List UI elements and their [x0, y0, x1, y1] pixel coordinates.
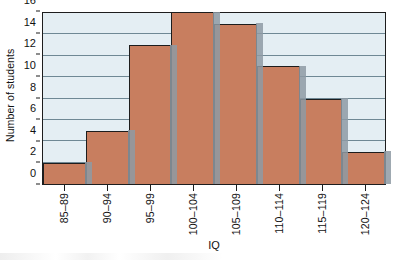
bar-cell: [43, 13, 86, 184]
x-tick-cell: 115–119: [300, 185, 343, 243]
y-tick-mark: [36, 97, 40, 98]
y-tick-label: 12: [24, 37, 36, 49]
bar-cell: [214, 13, 257, 184]
y-tick-label: 14: [24, 16, 36, 28]
y-tick-mark: [36, 54, 40, 55]
bar-series: [43, 13, 385, 184]
y-tick-label: 0: [30, 167, 36, 179]
scan-artifact: [0, 253, 398, 260]
histogram-bar[interactable]: [129, 45, 172, 184]
x-tick-label: 120–124: [359, 193, 371, 235]
histogram-bar[interactable]: [257, 66, 300, 184]
x-tick-label: 115–119: [316, 193, 328, 234]
histogram-bar[interactable]: [342, 152, 385, 184]
x-tick-mark: [107, 185, 108, 191]
y-tick-mark: [36, 119, 40, 120]
bar-cell: [342, 13, 385, 184]
x-tick-cell: 105–109: [214, 185, 257, 243]
bar-cell: [86, 13, 129, 184]
y-tick-mark: [36, 184, 40, 185]
histogram-bar[interactable]: [171, 13, 214, 184]
histogram-bar[interactable]: [214, 24, 257, 184]
x-tick-mark: [236, 185, 237, 191]
x-tick-label: 110–114: [273, 193, 285, 234]
y-tick-label: 4: [30, 124, 36, 136]
x-tick-label: 90–94: [101, 193, 113, 223]
x-tick-cell: 120–124: [343, 185, 386, 243]
x-tick-cell: 100–104: [171, 185, 214, 243]
histogram-bar[interactable]: [86, 131, 129, 184]
y-tick-mark: [36, 32, 40, 33]
y-tick-mark: [36, 140, 40, 141]
y-axis-ticks: 0246810121416: [12, 12, 40, 185]
y-tick-label: 8: [30, 81, 36, 93]
y-tick-label: 6: [30, 102, 36, 114]
y-tick-label: 10: [24, 59, 36, 71]
y-tick-mark: [36, 11, 40, 12]
x-tick-label: 95–99: [144, 193, 156, 223]
x-tick-mark: [64, 185, 65, 191]
x-tick-mark: [365, 185, 366, 191]
histogram-bar[interactable]: [43, 163, 86, 184]
x-tick-mark: [193, 185, 194, 191]
histogram-bar[interactable]: [300, 99, 343, 185]
bar-cell: [129, 13, 172, 184]
bar-cell: [300, 13, 343, 184]
x-tick-label: 105–109: [230, 193, 242, 235]
x-tick-mark: [322, 185, 323, 191]
x-tick-cell: 110–114: [257, 185, 300, 243]
x-tick-cell: 90–94: [85, 185, 128, 243]
y-tick-mark: [36, 75, 40, 76]
y-tick-label: 16: [24, 0, 36, 6]
plot-area: [42, 12, 386, 185]
bar-cell: [171, 13, 214, 184]
x-tick-label: 100–104: [187, 193, 199, 235]
x-tick-cell: 95–99: [128, 185, 171, 243]
x-tick-label: 85–89: [58, 193, 70, 223]
x-tick-mark: [150, 185, 151, 191]
y-tick-label: 2: [30, 145, 36, 157]
y-tick-mark: [36, 162, 40, 163]
x-tick-cell: 85–89: [42, 185, 85, 243]
bar-cell: [257, 13, 300, 184]
x-axis-label: IQ: [42, 239, 386, 251]
histogram-figure: Number of students 0246810121416 85–8990…: [0, 0, 398, 260]
x-axis-ticks: 85–8990–9495–99100–104105–109110–114115–…: [42, 185, 386, 243]
x-tick-mark: [279, 185, 280, 191]
